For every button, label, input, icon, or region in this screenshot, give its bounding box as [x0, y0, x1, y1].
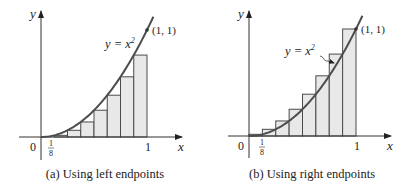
riemann-rectangle [68, 130, 81, 137]
tick-eighth-numerator: 1 [260, 138, 264, 147]
riemann-rectangle [81, 122, 94, 137]
y-axis-label: y [236, 6, 244, 21]
point-label: (1, 1) [361, 23, 385, 36]
tick-one-label: 1 [145, 140, 151, 154]
riemann-rectangle [343, 29, 356, 136]
y-axis-label: y [28, 6, 36, 21]
panel-right-endpoints: y x 0 1 8 1 y = x2 (1, 1) (b) Using righ… [228, 6, 393, 181]
origin-label: 0 [30, 140, 36, 154]
riemann-rectangle [107, 95, 120, 137]
x-axis-label: x [177, 139, 184, 154]
rectangles-left [54, 55, 147, 137]
point-label: (1, 1) [152, 24, 176, 37]
tick-eighth-denominator: 8 [260, 148, 264, 157]
curve-label: y = x2 [103, 36, 135, 51]
point-marker [145, 28, 149, 32]
tick-eighth-numerator: 1 [49, 139, 53, 148]
curve-label: y = x2 [283, 43, 315, 58]
riemann-rectangle [134, 55, 147, 137]
riemann-rectangle [94, 110, 107, 137]
riemann-rectangle [289, 109, 302, 136]
point-marker [354, 27, 358, 31]
caption-b: (b) Using right endpoints [249, 167, 375, 181]
riemann-rectangle [121, 77, 134, 137]
tick-eighth-denominator: 8 [49, 149, 53, 158]
x-axis-label: x [386, 138, 393, 153]
caption-a: (a) Using left endpoints [46, 167, 165, 181]
origin-label: 0 [238, 139, 244, 153]
panel-left-endpoints: y x 0 1 8 1 y = x2 (1, 1) (a) Using left… [19, 6, 184, 181]
riemann-rectangle [303, 94, 316, 136]
tick-one-label: 1 [354, 139, 360, 153]
riemann-sum-figure: y x 0 1 8 1 y = x2 (1, 1) (a) Using left… [0, 0, 415, 187]
